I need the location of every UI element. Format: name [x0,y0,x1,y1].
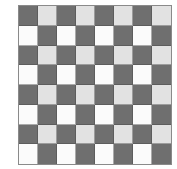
grid-cell-dark [76,105,95,125]
grid-cell-white [57,105,76,125]
grid-cell-white [19,144,38,164]
grid-cell-dark [152,105,171,125]
grid-cell-dark [19,46,38,66]
grid-cell-lightgray [114,46,133,66]
grid-cell-lightgray [76,85,95,105]
grid-cell-white [95,65,114,85]
grid-cell-dark [114,65,133,85]
grid-cell-lightgray [76,46,95,66]
grid-cell-lightgray [76,125,95,145]
grid-cell-dark [133,6,152,26]
grid-cell-lightgray [152,125,171,145]
grid-cell-dark [133,125,152,145]
grid-cell-white [57,26,76,46]
grid-cell-dark [38,144,57,164]
grid-cell-lightgray [38,125,57,145]
grid-cell-lightgray [152,46,171,66]
grid-cell-lightgray [114,6,133,26]
grid-cell-lightgray [38,6,57,26]
grid-cell-dark [95,6,114,26]
grid-cell-dark [114,105,133,125]
grid-cell-dark [57,125,76,145]
grid-cell-white [133,105,152,125]
grid-cell-dark [133,85,152,105]
grid-cell-lightgray [114,85,133,105]
grid-cell-lightgray [76,6,95,26]
grid-cell-white [57,144,76,164]
grid-cell-lightgray [38,85,57,105]
grid-cell-lightgray [38,46,57,66]
grid-cell-white [19,26,38,46]
grid-cell-white [19,65,38,85]
grid-cell-dark [57,85,76,105]
grid-cell-white [133,144,152,164]
grid-cell-dark [95,125,114,145]
grid-cell-white [95,144,114,164]
grid-cell-white [133,65,152,85]
grid-cell-dark [38,105,57,125]
grid-cell-dark [95,46,114,66]
checkerboard-grid [18,5,172,165]
grid-cell-lightgray [152,6,171,26]
grid-cell-lightgray [152,85,171,105]
grid-cell-white [19,105,38,125]
grid-cell-dark [38,65,57,85]
grid-cell-dark [38,26,57,46]
grid-cell-dark [95,85,114,105]
grid-cell-white [133,26,152,46]
grid-cell-dark [76,26,95,46]
grid-cell-lightgray [114,125,133,145]
grid-cell-dark [19,6,38,26]
grid-cell-white [95,105,114,125]
grid-cell-dark [114,26,133,46]
grid-cell-dark [133,46,152,66]
grid-cell-dark [19,125,38,145]
grid-cell-dark [152,26,171,46]
grid-cell-dark [76,65,95,85]
grid-cell-dark [57,6,76,26]
grid-cell-dark [19,85,38,105]
grid-cell-dark [152,144,171,164]
grid-cell-white [95,26,114,46]
grid-cell-dark [76,144,95,164]
grid-cell-dark [152,65,171,85]
grid-cell-white [57,65,76,85]
grid-cell-dark [114,144,133,164]
grid-cell-dark [57,46,76,66]
